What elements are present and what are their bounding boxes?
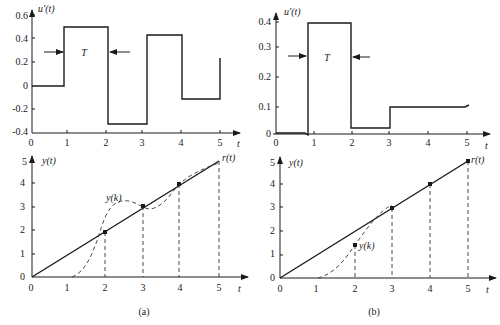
- x-tick-labels: 0 1 2 3 4 5: [278, 283, 471, 294]
- chart-b-bottom: 5 4 3 2 1 0 0 1 2 3 4 5 y(t) t: [270, 154, 496, 295]
- x-axis-label: t: [238, 283, 241, 294]
- x-axis-label: t: [486, 284, 489, 295]
- reference-ramp-line: [280, 161, 468, 278]
- sample-lines: [355, 161, 468, 278]
- sample-points: [353, 159, 470, 247]
- chart-a-top: 0.6 0.4 0.2 0 -0.2 -0.4 0 1 2 3 4 5 u'(t…: [12, 3, 240, 149]
- x-tick: 1: [312, 137, 317, 148]
- y-tick: -0.2: [12, 103, 28, 114]
- u-prime-step-line: [32, 27, 220, 124]
- y-tick-labels: 0.6 0.4 0.2 0 -0.2 -0.4: [12, 10, 28, 137]
- x-tick: 5: [218, 137, 223, 148]
- x-tick: 1: [65, 137, 70, 148]
- caption-a: (a): [138, 306, 149, 318]
- x-tick: 5: [217, 282, 222, 293]
- y-tick: 0.6: [16, 10, 29, 21]
- x-tick: 2: [353, 283, 358, 294]
- period-annotation: T: [44, 47, 130, 58]
- sample-lines: [105, 161, 219, 277]
- x-tick: 5: [466, 283, 471, 294]
- x-tick: 1: [314, 283, 319, 294]
- y-tick: -0.4: [12, 126, 28, 137]
- r-t-label: r(t): [471, 154, 485, 166]
- x-tick: 0: [274, 137, 279, 148]
- r-t-label: r(t): [222, 152, 236, 164]
- x-tick: 4: [179, 137, 184, 148]
- y-tick: 0.2: [259, 71, 272, 82]
- x-tick: 4: [428, 283, 433, 294]
- y-tick: 0.4: [259, 16, 272, 27]
- x-tick: 2: [103, 282, 108, 293]
- x-tick: 3: [390, 283, 395, 294]
- y-tick: 3: [270, 201, 275, 212]
- x-tick: 4: [426, 137, 431, 148]
- chart-b-top: 0.4 0.3 0.2 0.1 0 0 1 2 3 4 5 u'(t) t T: [259, 6, 491, 151]
- y-tick: 2: [270, 225, 275, 236]
- y-tick: 0.3: [259, 41, 272, 52]
- y-tick: 0.4: [16, 33, 29, 44]
- y-tick-labels: 0.4 0.3 0.2 0.1 0: [259, 16, 272, 139]
- figure-canvas: 0.6 0.4 0.2 0 -0.2 -0.4 0 1 2 3 4 5 u'(t…: [0, 0, 500, 325]
- y-tick: 1: [270, 248, 275, 259]
- period-label: T: [81, 47, 88, 58]
- x-tick: 3: [141, 282, 146, 293]
- caption-b: (b): [368, 306, 380, 318]
- x-tick-labels: 0 1 2 3 4 5: [29, 137, 223, 148]
- y-tick: 1: [20, 248, 25, 259]
- x-tick: 3: [387, 137, 392, 148]
- response-curve-dashed: [72, 163, 219, 277]
- x-tick-labels: 0 1 2 3 4 5: [29, 282, 222, 293]
- y-tick: 0: [266, 128, 271, 139]
- x-axis-label: t: [485, 140, 488, 151]
- y-tick: 0: [270, 272, 275, 283]
- y-tick: 2: [20, 224, 25, 235]
- x-tick: 1: [65, 282, 70, 293]
- y-k-label: y(k): [105, 192, 122, 204]
- period-label: T: [324, 52, 331, 63]
- y-tick-labels: 5 4 3 2 1 0: [20, 156, 27, 282]
- y-axis-label: u'(t): [284, 6, 301, 18]
- x-tick: 2: [350, 137, 355, 148]
- x-tick: 3: [140, 137, 145, 148]
- y-tick: 0: [23, 80, 28, 91]
- period-annotation: T: [288, 52, 370, 63]
- y-tick: 4: [270, 178, 275, 189]
- y-axis-label: u'(t): [38, 3, 55, 15]
- u-prime-step-line: [276, 23, 469, 135]
- y-tick: 5: [270, 157, 275, 168]
- reference-ramp-line: [32, 161, 219, 277]
- y-tick: 0.1: [259, 101, 272, 112]
- y-axis-label: y(t): [41, 155, 57, 167]
- y-k-label: y(k): [358, 240, 375, 252]
- y-tick: 4: [20, 177, 25, 188]
- y-tick: 0.2: [16, 56, 29, 67]
- y-tick: 5: [22, 156, 27, 167]
- x-tick: 0: [278, 283, 283, 294]
- chart-a-bottom: 5 4 3 2 1 0 0 1 2 3 4 5 y(t) t: [20, 152, 248, 294]
- x-tick: 2: [104, 137, 109, 148]
- y-tick-labels: 5 4 3 2 1 0: [270, 157, 275, 283]
- x-tick: 0: [29, 137, 34, 148]
- x-axis-label: t: [237, 138, 240, 149]
- x-tick: 0: [29, 282, 34, 293]
- y-tick: 3: [20, 201, 25, 212]
- y-tick: 0: [20, 271, 25, 282]
- x-tick: 5: [465, 137, 470, 148]
- x-tick-labels: 0 1 2 3 4 5: [274, 137, 470, 148]
- x-tick: 4: [178, 282, 183, 293]
- y-axis-label: y(t): [288, 157, 304, 169]
